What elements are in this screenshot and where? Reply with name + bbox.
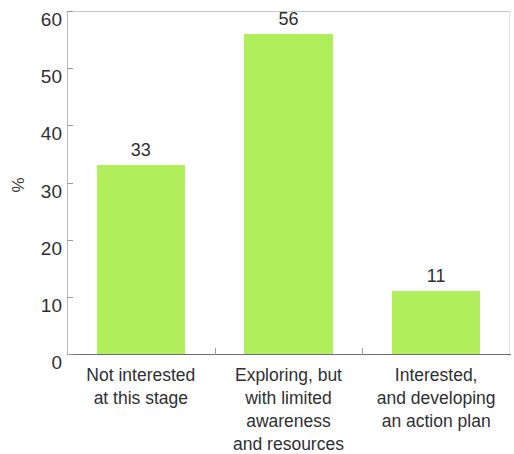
- x-axis-line: [67, 354, 511, 355]
- y-tick-mark: [67, 297, 73, 298]
- x-category-label: Interested, and developing an action pla…: [358, 364, 514, 433]
- y-tick-mark: [67, 11, 73, 12]
- y-tick-label: 40: [22, 124, 62, 143]
- bar-series-item: [244, 34, 333, 354]
- x-tick-mark: [215, 348, 216, 355]
- y-tick-label: 0: [22, 353, 62, 372]
- bar-value-label: 11: [396, 267, 476, 285]
- y-axis-tick-labels: 60 50 40 30 20 10 0: [22, 8, 62, 356]
- y-tick-mark: [67, 68, 73, 69]
- y-tick-label: 20: [22, 238, 62, 257]
- y-tick-mark: [67, 183, 73, 184]
- y-tick-label: 10: [22, 295, 62, 314]
- bar-value-label: 33: [101, 141, 181, 159]
- x-category-label: Exploring, but with limited awareness an…: [211, 364, 367, 454]
- y-tick-mark: [67, 354, 73, 355]
- y-tick-label: 60: [22, 10, 62, 29]
- y-tick-label: 30: [22, 181, 62, 200]
- y-tick-label: 50: [22, 67, 62, 86]
- plot-right-border: [509, 12, 510, 356]
- x-category-label: Not interested at this stage: [63, 364, 219, 410]
- bar-series-item: [392, 291, 481, 354]
- y-tick-mark: [67, 125, 73, 126]
- x-tick-mark: [362, 348, 363, 355]
- bar-value-label: 56: [249, 10, 329, 28]
- y-tick-mark: [67, 240, 73, 241]
- bar-series-item: [97, 165, 186, 354]
